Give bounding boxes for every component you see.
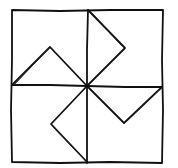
blade-top-right [87,10,125,86]
blade-top-left [12,47,87,86]
center-point [86,85,89,88]
pinwheel-drawing [0,0,178,168]
blade-top-right-fold [92,13,122,46]
blade-bottom-left [51,86,87,162]
blade-top-left-fold [15,49,48,84]
blade-bottom-right [87,86,162,123]
blade-bottom-left-fold [53,127,84,159]
pinwheel-diagram [0,0,178,168]
blade-bottom-right-fold [127,90,159,121]
